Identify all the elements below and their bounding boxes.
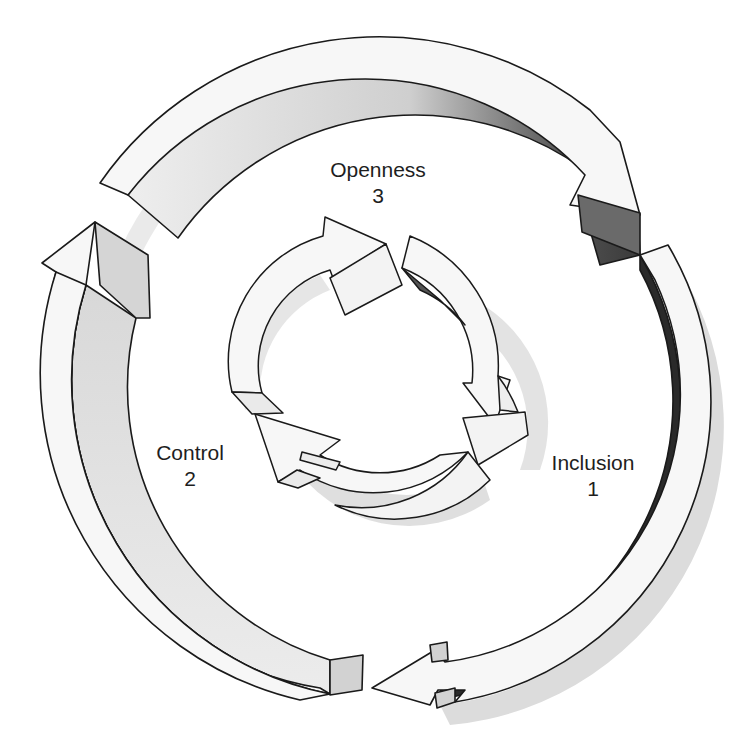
stage-number: 1	[533, 476, 653, 502]
stage-name: Inclusion	[533, 450, 653, 476]
inner-arrow-top-left	[228, 217, 402, 414]
stage-name: Control	[130, 440, 250, 466]
stage-label-inclusion: Inclusion 1	[533, 450, 653, 502]
outer-arrow-top	[100, 37, 640, 265]
stage-number: 2	[130, 466, 250, 492]
stage-number: 3	[318, 183, 438, 209]
stage-label-openness: Openness 3	[318, 157, 438, 209]
cycle-diagram	[0, 0, 732, 752]
stage-name: Openness	[318, 157, 438, 183]
stage-label-control: Control 2	[130, 440, 250, 492]
